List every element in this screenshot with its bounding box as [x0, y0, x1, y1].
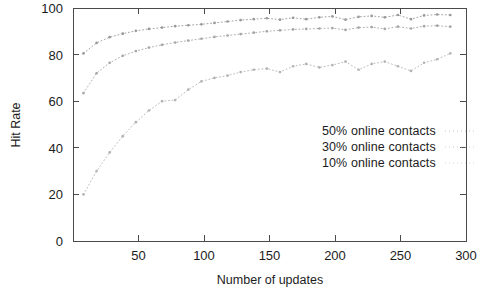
y-tick-label: 20 [49, 187, 63, 202]
data-point [397, 14, 400, 17]
data-point [357, 26, 360, 29]
data-series [82, 13, 452, 55]
data-point [161, 26, 164, 29]
data-point [187, 88, 190, 91]
data-point [279, 29, 282, 32]
data-point [266, 67, 269, 70]
data-point [82, 193, 85, 196]
data-point [252, 18, 255, 21]
x-axis-title: Number of updates [217, 273, 323, 287]
data-point [213, 36, 216, 39]
data-point [292, 65, 295, 68]
legend-entry-2: 10% online contacts [322, 156, 475, 170]
y-tick-label: 80 [49, 48, 63, 63]
legend-line-sample-0 [445, 127, 475, 135]
data-point [423, 14, 426, 17]
data-point [135, 29, 138, 32]
y-tick-label: 0 [56, 234, 63, 249]
data-point [108, 151, 111, 154]
data-point [226, 20, 229, 23]
data-point [292, 28, 295, 31]
data-point [318, 66, 321, 69]
data-point [436, 58, 439, 61]
x-tick-label: 150 [259, 248, 281, 263]
data-point [148, 109, 151, 112]
data-point [370, 63, 373, 66]
data-point [213, 22, 216, 25]
legend-label-0: 50% online contacts [322, 124, 436, 138]
data-point [95, 170, 98, 173]
legend-entry-0: 50% online contacts [322, 124, 475, 138]
data-point [410, 18, 413, 21]
y-tick-label: 60 [49, 94, 63, 109]
legend-line-sample-2 [445, 159, 475, 167]
data-point [305, 63, 308, 66]
data-point [239, 19, 242, 22]
x-tick-label: 200 [324, 248, 346, 263]
data-point [383, 60, 386, 63]
legend-line-sample-1 [445, 143, 475, 151]
data-point [161, 100, 164, 103]
data-point [370, 26, 373, 29]
data-point [305, 28, 308, 31]
data-point [449, 52, 452, 55]
data-point [436, 24, 439, 27]
data-point [213, 77, 216, 80]
x-tick-label: 100 [193, 248, 215, 263]
data-point [357, 68, 360, 71]
data-point [383, 28, 386, 31]
y-tick-label: 100 [41, 1, 63, 16]
data-point [200, 80, 203, 83]
data-point [121, 135, 124, 138]
data-point [252, 68, 255, 71]
data-point [305, 18, 308, 21]
data-point [200, 23, 203, 26]
data-point [279, 18, 282, 21]
data-point [174, 99, 177, 102]
data-point [383, 16, 386, 19]
data-point [423, 25, 426, 28]
data-point [331, 27, 334, 30]
data-point [318, 27, 321, 30]
data-point [174, 41, 177, 44]
data-point [226, 74, 229, 77]
data-point [82, 52, 85, 55]
data-point [331, 64, 334, 67]
data-point [226, 34, 229, 37]
data-point [135, 50, 138, 53]
y-axis-title: Hit Rate [9, 102, 23, 147]
data-point [108, 61, 111, 64]
data-point [331, 15, 334, 18]
data-point [357, 16, 360, 19]
data-point [239, 71, 242, 74]
data-point [449, 25, 452, 28]
data-point [187, 24, 190, 27]
legend-entry-1: 30% online contacts [322, 140, 475, 154]
data-point [423, 61, 426, 64]
data-series [82, 24, 452, 94]
data-point [82, 92, 85, 95]
data-point [370, 15, 373, 18]
data-point [410, 70, 413, 73]
data-point [148, 28, 151, 31]
x-tick-label: 50 [131, 248, 145, 263]
data-point [121, 32, 124, 35]
chart-figure: 02040608010050100150200250300 Number of … [0, 0, 502, 294]
data-point [266, 30, 269, 33]
data-point [187, 39, 190, 42]
data-point [95, 72, 98, 75]
data-point [161, 43, 164, 46]
data-point [279, 71, 282, 74]
data-point [410, 27, 413, 30]
data-point [436, 13, 439, 16]
y-tick-label: 40 [49, 141, 63, 156]
data-point [344, 60, 347, 63]
data-point [148, 46, 151, 49]
x-tick-label: 300 [455, 248, 477, 263]
data-point [397, 25, 400, 28]
data-point [397, 65, 400, 68]
data-point [449, 14, 452, 17]
data-point [239, 33, 242, 36]
data-point [174, 25, 177, 28]
data-point [252, 31, 255, 34]
